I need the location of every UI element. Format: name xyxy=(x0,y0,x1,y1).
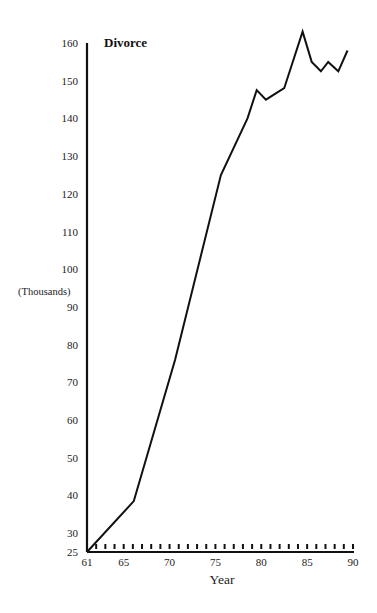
x-tick-label: 85 xyxy=(302,556,314,568)
x-tick-label: 61 xyxy=(82,556,93,568)
y-tick-label: 160 xyxy=(62,37,79,49)
y-tick-label: 80 xyxy=(67,339,79,351)
y-tick-label: 110 xyxy=(62,226,79,238)
y-tick-label: 140 xyxy=(62,112,79,124)
divorce-series-line xyxy=(87,32,348,552)
y-tick-label: 40 xyxy=(67,489,79,501)
x-axis-title: Year xyxy=(210,572,235,587)
x-axis-tick-labels: 61657075808590 xyxy=(82,556,360,568)
y-tick-label: 25 xyxy=(67,546,79,558)
x-tick-label: 65 xyxy=(118,556,130,568)
y-tick-label: 150 xyxy=(62,75,79,87)
x-tick-label: 90 xyxy=(348,556,360,568)
y-tick-label: 130 xyxy=(62,150,79,162)
y-tick-label: 60 xyxy=(67,414,79,426)
y-tick-label: 30 xyxy=(67,527,79,539)
x-axis-minor-ticks xyxy=(96,544,353,549)
y-axis-tick-labels: 2530405060708090100110120130140150160 xyxy=(62,37,79,558)
y-tick-label: 50 xyxy=(67,452,79,464)
x-tick-label: 75 xyxy=(210,556,222,568)
y-tick-label: 100 xyxy=(62,263,79,275)
divorce-line-chart: 2530405060708090100110120130140150160 Di… xyxy=(0,0,377,613)
y-tick-label: 120 xyxy=(62,188,79,200)
y-axis-title: (Thousands) xyxy=(18,286,71,298)
chart-title: Divorce xyxy=(104,35,147,50)
y-tick-label: 70 xyxy=(67,376,79,388)
x-tick-label: 80 xyxy=(256,556,268,568)
y-tick-label: 90 xyxy=(67,301,79,313)
x-tick-label: 70 xyxy=(164,556,176,568)
